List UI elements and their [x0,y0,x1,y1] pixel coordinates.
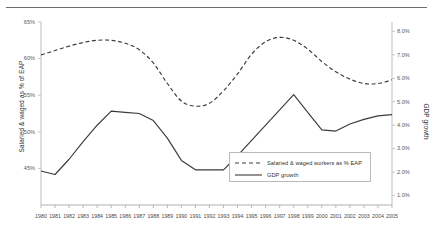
legend-item-salaried: Salaried & waged workers as % EAP [235,157,365,169]
chart-legend: Salaried & waged workers as % EAP GDP gr… [229,152,371,182]
chart-figure: Salaried & waged as % of EAP GDP growth … [0,0,433,235]
dashed-line-icon [235,159,262,167]
plot-area [0,0,433,235]
series-line-salaried [41,37,392,106]
legend-item-gdp: GDP growth [235,169,365,181]
solid-line-icon [235,171,262,179]
legend-label-salaried: Salaried & waged workers as % EAP [267,160,362,166]
legend-label-gdp: GDP growth [267,172,298,178]
